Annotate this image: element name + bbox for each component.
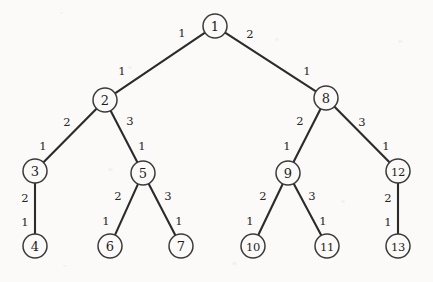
edge-weight-8-12-from: 3 xyxy=(358,115,365,129)
nodes-layer: 12835912467101113 xyxy=(23,14,410,258)
tree-node-6[interactable]: 6 xyxy=(98,234,122,258)
edge-weight-3-4-from: 2 xyxy=(21,191,28,205)
node-label-3: 3 xyxy=(31,164,39,179)
node-label-1: 1 xyxy=(211,19,219,34)
tree-node-11[interactable]: 11 xyxy=(315,234,339,258)
node-label-13: 13 xyxy=(391,240,405,254)
node-label-10: 10 xyxy=(246,240,260,254)
node-label-2: 2 xyxy=(101,93,109,108)
edge-weight-12-13-from: 2 xyxy=(384,191,391,205)
edge-weight-2-5-from: 3 xyxy=(126,114,133,128)
edge-weight-2-5-to: 1 xyxy=(138,139,145,153)
edge-weight-9-10-to: 1 xyxy=(246,214,253,228)
edge-weight-8-9-to: 1 xyxy=(283,139,290,153)
tree-node-4[interactable]: 4 xyxy=(23,234,47,258)
node-label-6: 6 xyxy=(106,239,114,254)
tree-node-9[interactable]: 9 xyxy=(276,161,300,185)
edge-weight-9-11-from: 3 xyxy=(308,189,315,203)
tree-node-2[interactable]: 2 xyxy=(93,88,117,112)
node-label-5: 5 xyxy=(139,166,147,181)
tree-edge-1-2 xyxy=(115,33,204,93)
edge-weight-2-3-to: 1 xyxy=(39,139,46,153)
edge-weight-5-6-to: 1 xyxy=(102,214,109,228)
edge-weight-1-8-from: 2 xyxy=(246,27,253,41)
node-label-11: 11 xyxy=(320,240,334,254)
tree-edge-1-8 xyxy=(225,33,315,91)
edge-weight-9-10-from: 2 xyxy=(259,189,266,203)
node-label-8: 8 xyxy=(322,91,330,106)
node-label-12: 12 xyxy=(391,165,405,179)
figure-canvas: 12835912467101113 1121213121312121312131… xyxy=(0,0,433,282)
edge-weight-5-7-to: 1 xyxy=(175,214,182,228)
tree-diagram: 12835912467101113 1121213121312121312131… xyxy=(0,0,433,282)
tree-node-5[interactable]: 5 xyxy=(131,161,155,185)
tree-node-10[interactable]: 10 xyxy=(241,234,265,258)
edge-weight-12-13-to: 1 xyxy=(384,215,391,229)
edge-weight-5-6-from: 2 xyxy=(114,189,121,203)
edge-weight-5-7-from: 3 xyxy=(164,189,171,203)
edge-weight-8-12-to: 1 xyxy=(382,139,389,153)
edge-weight-2-3-from: 2 xyxy=(63,115,70,129)
tree-node-12[interactable]: 12 xyxy=(386,159,410,183)
edge-weight-1-2-from: 1 xyxy=(178,26,185,40)
node-label-9: 9 xyxy=(284,166,292,181)
edge-weight-3-4-to: 1 xyxy=(21,215,28,229)
tree-node-8[interactable]: 8 xyxy=(314,86,338,110)
tree-node-1[interactable]: 1 xyxy=(203,14,227,38)
edge-weight-1-8-to: 1 xyxy=(303,64,310,78)
tree-node-7[interactable]: 7 xyxy=(169,234,193,258)
node-label-7: 7 xyxy=(177,239,185,254)
edge-weight-1-2-to: 1 xyxy=(118,64,125,78)
tree-node-3[interactable]: 3 xyxy=(23,159,47,183)
edge-weight-8-9-from: 2 xyxy=(296,114,303,128)
edge-weight-9-11-to: 1 xyxy=(319,214,326,228)
tree-node-13[interactable]: 13 xyxy=(386,234,410,258)
edges-layer xyxy=(35,33,398,235)
node-label-4: 4 xyxy=(31,239,39,254)
